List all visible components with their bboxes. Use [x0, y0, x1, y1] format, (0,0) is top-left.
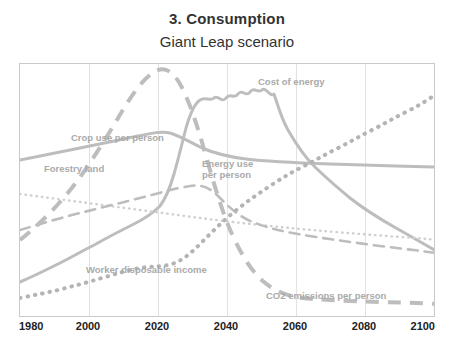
series-layer	[20, 64, 435, 317]
x-axis: 1980 2000 2020 2040 2060 2080 2100	[0, 320, 454, 340]
plot-area: Cost of energy Crop use per person Fores…	[19, 63, 435, 317]
annotation-worker-disposable-income: Worker disposable income	[86, 264, 207, 275]
series-forestry-land	[20, 194, 435, 240]
annotation-crop-use-per-person: Crop use per person	[71, 132, 164, 143]
series-energy-use-per-person	[20, 185, 435, 253]
x-tick-2000: 2000	[76, 320, 100, 332]
x-tick-2080: 2080	[352, 320, 376, 332]
x-tick-1980: 1980	[19, 320, 43, 332]
x-tick-2040: 2040	[214, 320, 238, 332]
annotation-forestry-land: Forestry land	[44, 163, 104, 174]
series-worker-disposable-income	[20, 94, 435, 298]
x-tick-2060: 2060	[283, 320, 307, 332]
x-tick-2100: 2100	[411, 320, 435, 332]
series-cost-of-energy	[20, 89, 435, 282]
annotation-energy-use-per-person: Energy use per person	[202, 158, 253, 180]
page-subtitle: Giant Leap scenario	[0, 33, 454, 50]
x-tick-2020: 2020	[145, 320, 169, 332]
annotation-co2-emissions-per-person: CO2 emissions per person	[266, 290, 386, 301]
series-co2-emissions-per-person	[20, 69, 435, 304]
chart-page: 3. Consumption Giant Leap scenario Cost …	[0, 0, 454, 349]
page-title: 3. Consumption	[0, 10, 454, 27]
annotation-cost-of-energy: Cost of energy	[258, 76, 325, 87]
